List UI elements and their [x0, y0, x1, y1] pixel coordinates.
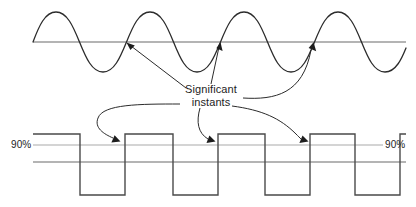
leader-to-square-instant-2	[198, 108, 208, 139]
leader-to-sine-instant-3	[243, 50, 311, 98]
square-annotation-leaders	[97, 104, 308, 143]
leader-to-square-instant-1	[97, 104, 180, 138]
annotation-line-2: instants	[176, 96, 246, 109]
signal-timing-diagram: Significant instants 90% 90%	[0, 0, 416, 207]
arrowhead-sine-instant-1	[127, 43, 135, 50]
sine-wave-panel	[33, 12, 406, 72]
arrowhead-square-instant-2	[207, 136, 216, 144]
square-wave-panel	[33, 134, 406, 195]
arrowhead-square-instant-3	[299, 136, 308, 144]
arrowhead-sine-instant-3	[309, 42, 317, 51]
significant-instants-label: Significant instants	[176, 83, 246, 108]
annotation-line-1: Significant	[176, 83, 246, 96]
ninety-percent-label-left: 90%	[11, 139, 31, 150]
leader-to-sine-instant-2	[211, 47, 219, 84]
arrowhead-square-instant-1	[111, 135, 120, 142]
square-waveform	[33, 134, 406, 195]
ninety-percent-label-right: 90%	[385, 139, 405, 150]
